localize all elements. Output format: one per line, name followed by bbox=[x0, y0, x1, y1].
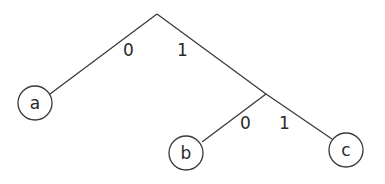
edge-label-inner-left: 0 bbox=[240, 113, 251, 133]
edge-root-to-inner bbox=[157, 14, 266, 94]
edge-root-to-a bbox=[50, 14, 157, 94]
leaf-label-a: a bbox=[30, 93, 40, 113]
edge-label-root-left: 0 bbox=[123, 40, 134, 60]
leaf-node-b: b bbox=[169, 136, 203, 170]
edge-inner-to-c bbox=[266, 94, 332, 139]
code-tree-diagram: 0 1 0 1 a b c bbox=[0, 0, 385, 184]
leaf-node-c: c bbox=[329, 133, 363, 167]
edge-label-root-right: 1 bbox=[177, 40, 188, 60]
edge-inner-to-b bbox=[202, 94, 266, 142]
leaf-node-a: a bbox=[18, 86, 52, 120]
edge-label-inner-right: 1 bbox=[279, 113, 290, 133]
leaf-label-b: b bbox=[181, 143, 192, 163]
leaf-label-c: c bbox=[341, 140, 350, 160]
